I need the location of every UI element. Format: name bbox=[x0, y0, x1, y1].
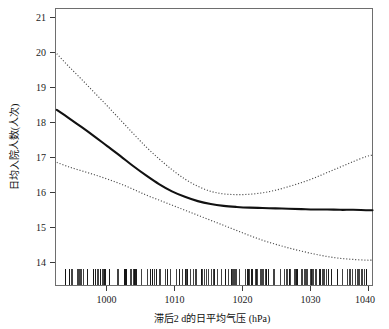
y-tick-group: 18 bbox=[36, 117, 55, 128]
y-tick-group: 21 bbox=[36, 12, 55, 23]
y-tick-group: 15 bbox=[36, 222, 55, 233]
y-tick-group: 16 bbox=[36, 187, 55, 198]
y-tick-group: 14 bbox=[36, 257, 55, 268]
x-tick-group: 1010 bbox=[165, 286, 185, 306]
y-tick-label: 21 bbox=[36, 12, 46, 23]
y-tick-label: 20 bbox=[36, 47, 46, 58]
y-tick-group: 19 bbox=[36, 82, 55, 93]
fitted-smooth-curve bbox=[57, 110, 373, 210]
x-tick-group: 1020 bbox=[233, 286, 253, 306]
lower-confidence-band bbox=[57, 162, 373, 260]
data-rug-marks bbox=[65, 269, 366, 285]
y-tick-label: 14 bbox=[36, 257, 46, 268]
x-tick-label: 1020 bbox=[233, 294, 253, 305]
x-tick-label: 1010 bbox=[165, 294, 185, 305]
y-axis: 21 20 19 18 17 16 bbox=[36, 12, 55, 268]
y-tick-group: 20 bbox=[36, 47, 55, 58]
gam-smooth-plot: 21 20 19 18 17 16 bbox=[0, 0, 389, 329]
x-tick-label: 1000 bbox=[97, 294, 117, 305]
x-tick-group: 1030 bbox=[301, 286, 321, 306]
x-tick-group: 1000 bbox=[97, 286, 117, 306]
x-axis-title: 滞后2 d的日平均气压 (hPa) bbox=[154, 312, 271, 325]
x-tick-group: 1040 bbox=[355, 286, 375, 306]
y-tick-label: 18 bbox=[36, 117, 46, 128]
y-tick-label: 17 bbox=[36, 152, 46, 163]
plot-frame bbox=[56, 9, 373, 286]
x-tick-label: 1040 bbox=[355, 294, 375, 305]
y-tick-label: 16 bbox=[36, 187, 46, 198]
y-tick-label: 19 bbox=[36, 82, 46, 93]
upper-confidence-band bbox=[57, 54, 373, 195]
y-axis-title: 日均入院人数(人次) bbox=[8, 104, 21, 191]
y-tick-label: 15 bbox=[36, 222, 46, 233]
x-axis: 1000 1010 1020 1030 1040 bbox=[97, 286, 376, 306]
chart-container: 21 20 19 18 17 16 bbox=[0, 0, 389, 329]
y-tick-group: 17 bbox=[36, 152, 55, 163]
x-tick-label: 1030 bbox=[301, 294, 321, 305]
